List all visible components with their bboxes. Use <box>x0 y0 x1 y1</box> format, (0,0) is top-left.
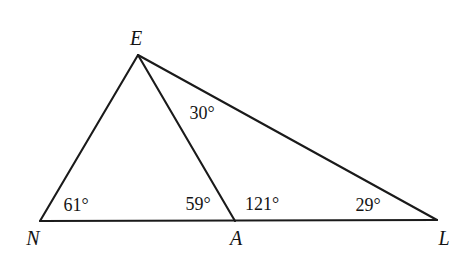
segment-NL <box>40 220 437 221</box>
angle-label-AEL-30: 30° <box>189 104 214 122</box>
segment-EL <box>138 55 437 220</box>
vertex-label-N: N <box>26 228 39 248</box>
geometry-diagram: E N A L 61° 59° 121° 30° 29° <box>0 0 469 254</box>
angle-label-N-61: 61° <box>63 196 88 214</box>
angle-label-EAL-121: 121° <box>245 195 279 213</box>
vertex-label-A: A <box>230 228 242 248</box>
vertex-label-E: E <box>130 28 142 48</box>
segment-NE <box>40 55 138 221</box>
angle-label-EAN-59: 59° <box>185 195 210 213</box>
vertex-label-L: L <box>438 228 449 248</box>
geometry-canvas <box>0 0 469 254</box>
angle-label-L-29: 29° <box>355 196 380 214</box>
